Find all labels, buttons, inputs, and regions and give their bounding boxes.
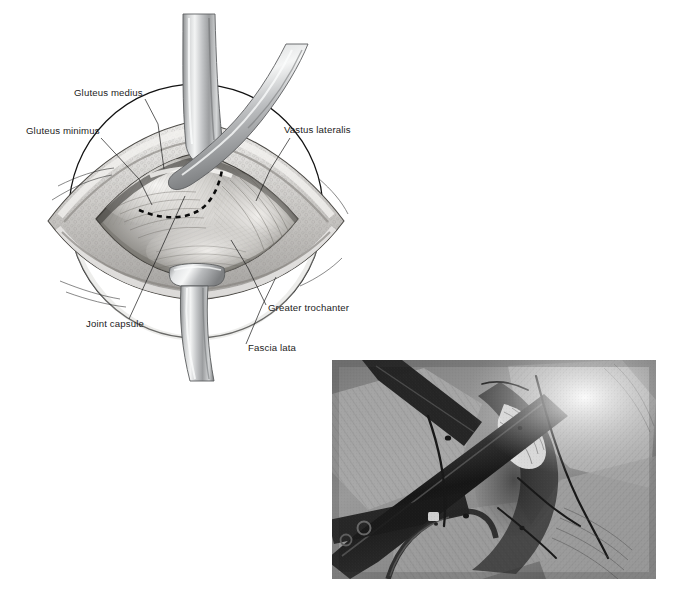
- inferior-retractor[interactable]: [169, 264, 224, 382]
- photograph-content: [332, 360, 656, 579]
- label-greater-trochanter: Greater trochanter: [268, 302, 350, 313]
- label-fascia-lata: Fascia lata: [248, 342, 297, 353]
- illustration-canvas: Gluteus medius Gluteus minimus Vastus la…: [0, 0, 430, 385]
- photograph-canvas: [332, 360, 656, 579]
- photo-film-grain: [332, 360, 656, 579]
- intraoperative-photograph: [332, 360, 656, 579]
- surgical-illustration: Gluteus medius Gluteus minimus Vastus la…: [0, 0, 430, 385]
- figure-root: Gluteus medius Gluteus minimus Vastus la…: [0, 0, 682, 595]
- label-gluteus-medius: Gluteus medius: [74, 87, 143, 98]
- label-gluteus-minimus: Gluteus minimus: [26, 125, 100, 136]
- label-vastus-lateralis: Vastus lateralis: [284, 124, 351, 135]
- label-joint-capsule: Joint capsule: [86, 318, 144, 329]
